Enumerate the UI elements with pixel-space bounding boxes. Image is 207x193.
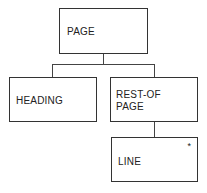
node-heading-label: HEADING [16,95,63,107]
node-line: LINE * [111,137,198,182]
connector-horizontal [52,64,155,65]
iteration-marker: * [187,141,191,151]
connector-to-rest-of-page [154,64,155,77]
node-rest-of-page: REST-OF PAGE [110,77,198,122]
node-rest-of-page-label: REST-OF PAGE [116,89,161,113]
node-page: PAGE [59,8,148,54]
node-heading: HEADING [9,77,97,122]
connector-to-heading [52,64,53,77]
connector-to-line [154,122,155,137]
node-page-label: PAGE [67,26,95,38]
node-line-label: LINE [118,156,141,168]
connector-page-down [103,54,104,64]
